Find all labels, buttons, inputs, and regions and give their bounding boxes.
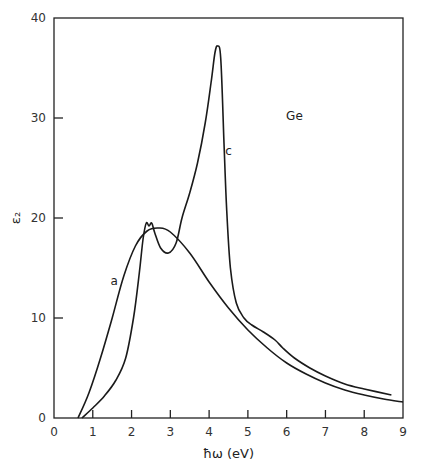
x-tick-label: 1: [89, 425, 97, 439]
x-tick-label: 3: [167, 425, 175, 439]
y-tick-label: 30: [31, 111, 46, 125]
y-ticks: 010203040: [31, 11, 63, 425]
plot-frame: [54, 18, 403, 418]
x-ticks: 0123456789: [50, 410, 407, 439]
y-tick-label: 10: [31, 311, 46, 325]
series-line-c: [82, 46, 392, 418]
x-tick-label: 6: [283, 425, 291, 439]
y-tick-label: 0: [38, 411, 46, 425]
series-layer: [78, 46, 403, 418]
y-tick-label: 20: [31, 211, 46, 225]
x-tick-label: 7: [322, 425, 330, 439]
y-tick-label: 40: [31, 11, 46, 25]
x-tick-label: 4: [205, 425, 213, 439]
x-tick-label: 0: [50, 425, 58, 439]
x-tick-label: 2: [128, 425, 136, 439]
x-tick-label: 9: [399, 425, 407, 439]
annotation-c: c: [225, 144, 232, 158]
x-axis-label: ħω (eV): [203, 446, 254, 461]
series-line-a: [78, 228, 403, 418]
annotations: Geca: [110, 109, 302, 288]
x-tick-label: 5: [244, 425, 252, 439]
y-axis-label: ε₂: [8, 212, 23, 224]
chart: 0123456789 010203040 Geca ħω (eV) ε₂: [0, 0, 423, 471]
annotation-ge: Ge: [286, 109, 303, 123]
annotation-a: a: [110, 274, 117, 288]
x-tick-label: 8: [360, 425, 368, 439]
